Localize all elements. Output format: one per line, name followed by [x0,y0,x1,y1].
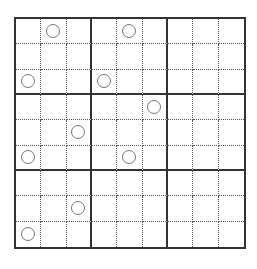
grid-cell-r5-c5[interactable] [143,146,168,171]
grid-cell-r1-c3[interactable] [92,44,117,69]
grid-cell-r6-c7[interactable] [193,171,218,196]
puzzle-grid [14,17,246,249]
grid-cell-r6-c4[interactable] [117,171,142,196]
grid-cell-r2-c4[interactable] [117,70,142,95]
grid-cell-r0-c7[interactable] [193,19,218,44]
grid-cell-r5-c8[interactable] [219,146,244,171]
grid-cell-r0-c0[interactable] [16,19,41,44]
grid-cell-r7-c4[interactable] [117,196,142,221]
circle-marker-icon [147,100,161,114]
grid-cell-r2-c1[interactable] [41,70,66,95]
grid-cell-r7-c3[interactable] [92,196,117,221]
grid-cell-r8-c7[interactable] [193,222,218,247]
grid-cell-r5-c7[interactable] [193,146,218,171]
grid-cell-r6-c1[interactable] [41,171,66,196]
grid-cell-r3-c7[interactable] [193,95,218,120]
grid-cell-r3-c2[interactable] [67,95,92,120]
grid-cell-r4-c5[interactable] [143,120,168,145]
grid-cell-r6-c5[interactable] [143,171,168,196]
grid-cell-r1-c4[interactable] [117,44,142,69]
grid-cell-r2-c7[interactable] [193,70,218,95]
grid-cell-r3-c1[interactable] [41,95,66,120]
grid-cell-r5-c3[interactable] [92,146,117,171]
grid-cell-r8-c3[interactable] [92,222,117,247]
grid-cell-r7-c0[interactable] [16,196,41,221]
grid-cell-r2-c2[interactable] [67,70,92,95]
grid-cell-r0-c1[interactable] [41,19,66,44]
grid-cell-r8-c5[interactable] [143,222,168,247]
grid-cell-r4-c3[interactable] [92,120,117,145]
grid-cell-r6-c8[interactable] [219,171,244,196]
grid-cell-r2-c3[interactable] [92,70,117,95]
grid-cell-r4-c1[interactable] [41,120,66,145]
grid-cell-r2-c6[interactable] [168,70,193,95]
grid-cell-r4-c7[interactable] [193,120,218,145]
grid-cell-r6-c2[interactable] [67,171,92,196]
grid-cell-r1-c7[interactable] [193,44,218,69]
grid-cell-r7-c7[interactable] [193,196,218,221]
grid-cell-r0-c6[interactable] [168,19,193,44]
grid-cell-r1-c2[interactable] [67,44,92,69]
grid-cell-r8-c1[interactable] [41,222,66,247]
grid-cell-r4-c8[interactable] [219,120,244,145]
grid-cell-r8-c8[interactable] [219,222,244,247]
circle-marker-icon [71,125,85,139]
grid-cell-r0-c2[interactable] [67,19,92,44]
circle-marker-icon [46,24,60,38]
grid-cell-r2-c8[interactable] [219,70,244,95]
grid-cell-r0-c3[interactable] [92,19,117,44]
grid-cell-r5-c4[interactable] [117,146,142,171]
grid-cell-r5-c6[interactable] [168,146,193,171]
grid-cell-r3-c0[interactable] [16,95,41,120]
grid-cell-r6-c0[interactable] [16,171,41,196]
grid-cell-r3-c6[interactable] [168,95,193,120]
grid-cell-r7-c6[interactable] [168,196,193,221]
grid-cell-r1-c1[interactable] [41,44,66,69]
grid-cell-r2-c0[interactable] [16,70,41,95]
circle-marker-icon [21,150,35,164]
grid-cell-r0-c5[interactable] [143,19,168,44]
grid-cell-r7-c8[interactable] [219,196,244,221]
grid-cell-r1-c5[interactable] [143,44,168,69]
grid-cell-r0-c8[interactable] [219,19,244,44]
grid-cell-r8-c6[interactable] [168,222,193,247]
grid-cell-r3-c5[interactable] [143,95,168,120]
grid-cell-r2-c5[interactable] [143,70,168,95]
grid-cell-r6-c6[interactable] [168,171,193,196]
grid-cell-r1-c6[interactable] [168,44,193,69]
circle-marker-icon [71,201,85,215]
grid-cell-r6-c3[interactable] [92,171,117,196]
grid-cell-r4-c2[interactable] [67,120,92,145]
grid-cell-r8-c2[interactable] [67,222,92,247]
grid-cell-r7-c1[interactable] [41,196,66,221]
circle-marker-icon [97,74,111,88]
grid-cell-r4-c0[interactable] [16,120,41,145]
grid-cell-r8-c4[interactable] [117,222,142,247]
grid-cell-r3-c3[interactable] [92,95,117,120]
grid-cell-r3-c4[interactable] [117,95,142,120]
grid-cell-r4-c6[interactable] [168,120,193,145]
grid-cell-r7-c2[interactable] [67,196,92,221]
grid-cell-r0-c4[interactable] [117,19,142,44]
grid-cell-r3-c8[interactable] [219,95,244,120]
circle-marker-icon [122,150,136,164]
grid-cell-r5-c0[interactable] [16,146,41,171]
grid-cell-r8-c0[interactable] [16,222,41,247]
grid-cell-r1-c8[interactable] [219,44,244,69]
grid-cell-r7-c5[interactable] [143,196,168,221]
grid-cell-r5-c2[interactable] [67,146,92,171]
circle-marker-icon [21,227,35,241]
circle-marker-icon [122,24,136,38]
grid-cell-r1-c0[interactable] [16,44,41,69]
grid-cell-r5-c1[interactable] [41,146,66,171]
grid-cell-r4-c4[interactable] [117,120,142,145]
circle-marker-icon [21,74,35,88]
